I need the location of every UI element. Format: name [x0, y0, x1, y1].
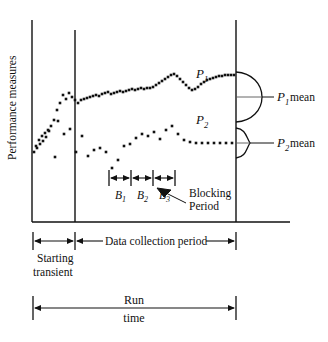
- data-point-P2: [105, 151, 108, 154]
- data-point-P2: [189, 141, 192, 144]
- data-point-P2: [219, 142, 222, 145]
- mean-label-p2-word: mean: [290, 137, 315, 149]
- data-point-P1: [71, 96, 74, 99]
- data-point-P2: [54, 156, 57, 159]
- data-point-P1: [212, 77, 215, 80]
- series-label-p1: P 1: [195, 66, 208, 84]
- data-point-P1: [179, 78, 182, 81]
- data-point-P1: [62, 94, 65, 97]
- data-point-P1: [194, 88, 197, 91]
- run-time-label-line2: time: [123, 311, 144, 325]
- data-point-P1: [92, 95, 95, 98]
- data-point-P2: [195, 142, 198, 145]
- series-label-p1-subscript: 1: [204, 74, 208, 84]
- mean-label-p2: P 2 mean: [276, 135, 315, 153]
- data-point-P2: [141, 133, 144, 136]
- data-point-P1: [215, 76, 218, 79]
- mean-label-p1: P 1 mean: [276, 89, 315, 107]
- data-point-P1: [221, 75, 224, 78]
- data-point-P2: [57, 120, 60, 123]
- data-point-P1: [98, 95, 101, 98]
- data-point-P1: [101, 93, 104, 96]
- data-point-P1: [197, 86, 200, 89]
- data-point-P2: [33, 151, 36, 154]
- data-point-P2: [93, 149, 96, 152]
- data-point-P1: [182, 81, 185, 84]
- data-point-P1: [59, 102, 62, 105]
- data-point-P1: [230, 74, 233, 77]
- data-point-P1: [53, 119, 56, 122]
- figure-canvas: Performance measures P 1 P 2 P 1 mean: [0, 0, 328, 342]
- data-point-P2: [42, 140, 45, 143]
- data-point-P2: [45, 136, 48, 139]
- block-label-subscript: 3: [165, 195, 170, 204]
- mean-label-p1-subscript: 1: [285, 97, 289, 107]
- data-point-P2: [81, 135, 84, 138]
- data-point-P1: [44, 132, 47, 135]
- data-point-P1: [200, 83, 203, 86]
- data-point-P1: [89, 96, 92, 99]
- data-point-P2: [99, 147, 102, 150]
- data-point-P2: [36, 147, 39, 150]
- data-point-P2: [213, 142, 216, 145]
- block-label-subscript: 2: [144, 195, 148, 204]
- data-point-P1: [176, 75, 179, 78]
- block-label-subscript: 1: [122, 195, 126, 204]
- data-point-P1: [83, 98, 86, 101]
- mean-label-p2-letter: P: [276, 135, 285, 150]
- data-point-P1: [95, 94, 98, 97]
- data-point-P2: [123, 145, 126, 148]
- blocking-period-label-line1: Blocking: [189, 187, 231, 200]
- data-point-P2: [63, 133, 66, 136]
- data-point-P2: [171, 125, 174, 128]
- data-point-P2: [159, 138, 162, 141]
- data-point-P1: [41, 135, 44, 138]
- data-point-P2: [153, 131, 156, 134]
- data-point-P2: [69, 128, 72, 131]
- data-point-P2: [48, 130, 51, 133]
- data-point-P2: [225, 142, 228, 145]
- data-point-P1: [80, 99, 83, 102]
- data-point-P1: [167, 76, 170, 79]
- data-point-P1: [38, 139, 41, 142]
- blocking-period-label-line2: Period: [189, 200, 219, 212]
- data-point-P1: [149, 87, 152, 90]
- data-point-P1: [125, 90, 128, 93]
- data-point-P2: [231, 142, 234, 145]
- data-point-P2: [75, 151, 78, 154]
- data-point-P1: [188, 87, 191, 90]
- data-point-P1: [227, 74, 230, 77]
- data-point-P1: [116, 91, 119, 94]
- series-label-p1-letter: P: [195, 66, 204, 81]
- data-point-P1: [110, 93, 113, 96]
- data-point-P1: [104, 92, 107, 95]
- data-point-P2: [177, 133, 180, 136]
- data-point-P1: [164, 78, 167, 81]
- series-label-p2-subscript: 2: [204, 120, 209, 130]
- data-point-P2: [87, 155, 90, 158]
- data-point-P1: [140, 87, 143, 90]
- data-point-P1: [191, 89, 194, 92]
- data-point-P2: [135, 137, 138, 140]
- data-point-P2: [183, 139, 186, 142]
- data-point-P2: [129, 143, 132, 146]
- data-point-P1: [218, 75, 221, 78]
- data-point-P1: [131, 88, 134, 91]
- run-time-label-line1: Run: [124, 293, 144, 307]
- data-point-P2: [165, 129, 168, 132]
- data-point-P1: [56, 109, 59, 112]
- data-point-P1: [128, 89, 131, 92]
- mean-label-p1-letter: P: [276, 89, 285, 104]
- data-point-P2: [39, 143, 42, 146]
- data-point-P1: [107, 91, 110, 94]
- simulation-output-figure: Performance measures P 1 P 2 P 1 mean: [0, 0, 328, 342]
- data-point-P1: [134, 89, 137, 92]
- data-point-P1: [146, 87, 149, 90]
- data-point-P1: [74, 99, 77, 102]
- data-point-P1: [233, 74, 236, 77]
- y-axis-label: Performance measures: [6, 55, 18, 160]
- data-point-P1: [209, 78, 212, 81]
- data-point-P1: [161, 80, 164, 83]
- data-point-P1: [155, 84, 158, 87]
- data-point-P1: [137, 88, 140, 91]
